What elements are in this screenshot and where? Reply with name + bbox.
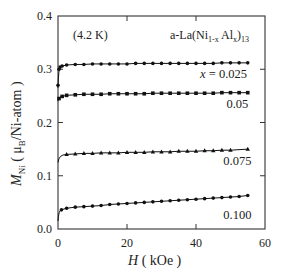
data-point bbox=[125, 202, 129, 206]
title-sub1: 1-x bbox=[208, 35, 219, 44]
data-point bbox=[177, 62, 181, 66]
data-point bbox=[82, 205, 86, 209]
data-point bbox=[108, 62, 112, 66]
data-point bbox=[82, 63, 86, 67]
data-point bbox=[151, 200, 155, 204]
data-points bbox=[56, 61, 250, 212]
x-axis-unit: ( kOe ) bbox=[138, 253, 181, 269]
data-point bbox=[168, 199, 172, 203]
x-tick-label: 60 bbox=[259, 236, 271, 250]
title-prefix: a-La(Ni bbox=[170, 28, 209, 42]
data-point bbox=[99, 62, 103, 66]
data-point bbox=[194, 91, 198, 95]
data-point bbox=[246, 194, 250, 198]
chart-title: a-La(Ni1-x Alx)13 bbox=[170, 28, 249, 44]
data-point bbox=[237, 91, 241, 95]
fit-curve bbox=[58, 195, 248, 221]
data-point bbox=[91, 204, 95, 208]
y-tick-label: 0.2 bbox=[37, 116, 52, 130]
data-point bbox=[237, 61, 241, 65]
data-point bbox=[220, 61, 224, 65]
data-point bbox=[203, 197, 207, 201]
x-tick-label: 40 bbox=[190, 236, 202, 250]
data-point bbox=[211, 196, 215, 200]
data-point bbox=[108, 203, 112, 207]
data-point bbox=[151, 91, 155, 95]
data-point bbox=[203, 91, 207, 95]
y-axis-open: ( μ bbox=[9, 146, 25, 165]
temperature-annotation: (4.2 K) bbox=[73, 28, 108, 42]
data-point bbox=[134, 62, 138, 66]
data-point bbox=[220, 196, 224, 200]
series-label: 0.05 bbox=[226, 97, 248, 111]
data-point bbox=[203, 62, 207, 66]
series-labels: x = 0.0250.050.0750.100 bbox=[199, 67, 251, 223]
data-point bbox=[229, 195, 233, 199]
data-point bbox=[211, 62, 215, 66]
y-tick-label: 0.4 bbox=[37, 9, 52, 23]
data-point bbox=[246, 91, 250, 95]
y-axis-rest: /Ni-atom ) bbox=[9, 81, 25, 140]
data-point bbox=[194, 62, 198, 66]
x-tick-label: 0 bbox=[55, 236, 61, 250]
data-point bbox=[186, 62, 190, 66]
data-point bbox=[117, 92, 121, 96]
data-point bbox=[142, 92, 146, 96]
data-point bbox=[134, 201, 138, 205]
data-point bbox=[237, 195, 241, 199]
data-point bbox=[160, 91, 164, 95]
data-point bbox=[160, 62, 164, 66]
data-point bbox=[186, 91, 190, 95]
magnetization-chart: 02040600.00.10.20.30.4 x = 0.0250.050.07… bbox=[0, 0, 282, 274]
title-sub3: 13 bbox=[241, 35, 249, 44]
y-axis-label: MNi ( μB/Ni-atom ) bbox=[9, 81, 27, 187]
data-point bbox=[65, 206, 69, 210]
y-tick-label: 0.1 bbox=[37, 169, 52, 183]
data-point bbox=[73, 63, 77, 67]
fit-curves bbox=[58, 63, 248, 221]
data-point bbox=[194, 197, 198, 201]
data-point bbox=[82, 92, 86, 96]
data-point bbox=[91, 62, 95, 66]
data-point bbox=[125, 62, 129, 66]
data-point bbox=[142, 201, 146, 205]
data-point bbox=[177, 198, 181, 202]
data-point bbox=[60, 95, 64, 99]
series-label: 0.075 bbox=[223, 154, 251, 168]
data-point bbox=[229, 61, 233, 65]
y-tick-label: 0.0 bbox=[37, 222, 52, 236]
data-point bbox=[73, 205, 77, 209]
data-point bbox=[125, 92, 129, 96]
data-point bbox=[117, 62, 121, 66]
data-point bbox=[57, 97, 61, 101]
data-point bbox=[220, 91, 224, 95]
data-point bbox=[142, 62, 146, 66]
x-tick-label: 20 bbox=[121, 236, 133, 250]
data-point bbox=[91, 92, 95, 96]
data-point bbox=[160, 200, 164, 204]
data-point bbox=[186, 198, 190, 202]
data-point bbox=[108, 92, 112, 96]
data-point bbox=[211, 91, 215, 95]
data-point bbox=[60, 64, 64, 68]
data-point bbox=[134, 92, 138, 96]
data-point bbox=[65, 63, 69, 67]
data-point bbox=[168, 91, 172, 95]
data-point bbox=[177, 91, 181, 95]
data-point bbox=[99, 92, 103, 96]
data-point bbox=[168, 62, 172, 66]
data-point bbox=[117, 202, 121, 206]
title-mid: Al bbox=[219, 28, 234, 42]
series-label: 0.100 bbox=[223, 208, 251, 222]
data-point bbox=[73, 93, 77, 97]
series-label: x = 0.025 bbox=[199, 67, 247, 81]
data-point bbox=[65, 94, 69, 98]
y-tick-label: 0.3 bbox=[37, 62, 52, 76]
data-point bbox=[99, 204, 103, 208]
data-point bbox=[56, 83, 60, 87]
data-point bbox=[246, 61, 250, 65]
data-point bbox=[229, 91, 233, 95]
data-point bbox=[60, 208, 64, 212]
x-axis-label: H ( kOe ) bbox=[127, 253, 182, 269]
data-point bbox=[151, 62, 155, 66]
